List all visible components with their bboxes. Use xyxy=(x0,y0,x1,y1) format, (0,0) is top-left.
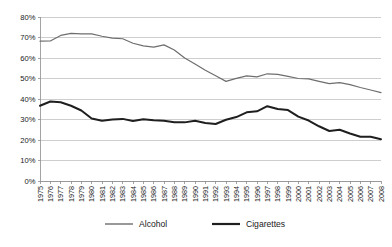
x-tick-label: 1981 xyxy=(98,186,107,202)
y-tick-label: 50% xyxy=(20,74,35,83)
x-tick-label: 1987 xyxy=(160,186,169,202)
x-tick-label: 1982 xyxy=(108,186,117,202)
x-tick-label: 1976 xyxy=(46,186,55,202)
x-tick-label: 1985 xyxy=(139,186,148,202)
x-tick-label: 2000 xyxy=(294,186,303,202)
y-tick-label: 10% xyxy=(20,156,35,165)
x-tick-label: 2005 xyxy=(346,186,355,202)
x-tick-label: 2002 xyxy=(315,186,324,202)
y-tick-label: 70% xyxy=(20,33,35,42)
x-tick-label: 1992 xyxy=(211,186,220,202)
x-tick-label: 1988 xyxy=(170,186,179,202)
x-tick-label: 2003 xyxy=(325,186,334,202)
x-tick-label: 2007 xyxy=(366,186,375,202)
y-tick-label: 80% xyxy=(20,13,35,22)
series-group xyxy=(40,33,381,139)
x-tick-label: 1995 xyxy=(242,186,251,202)
x-tick-label: 2008 xyxy=(377,186,386,202)
x-tick-label: 1998 xyxy=(273,186,282,202)
chart-canvas: 0%10%20%30%40%50%60%70%80% 1975197619771… xyxy=(0,0,392,247)
legend-item-alcohol[interactable]: Alcohol xyxy=(105,219,167,229)
series-line-cigarettes xyxy=(40,101,381,139)
x-tick-label: 1975 xyxy=(36,186,45,202)
x-tick-label: 1977 xyxy=(56,186,65,202)
x-tick-label: 1993 xyxy=(222,186,231,202)
y-tick-label: 20% xyxy=(20,136,35,145)
y-tick-label: 0% xyxy=(25,177,36,186)
legend-item-cigarettes[interactable]: Cigarettes xyxy=(212,219,285,229)
legend-label: Alcohol xyxy=(139,219,167,229)
y-tick-label: 30% xyxy=(20,115,35,124)
x-tick-label: 2004 xyxy=(335,186,344,202)
x-tick-label: 1994 xyxy=(232,186,241,202)
line-chart: 0%10%20%30%40%50%60%70%80% 1975197619771… xyxy=(0,0,392,247)
x-tick-label: 1996 xyxy=(253,186,262,202)
legend: AlcoholCigarettes xyxy=(105,219,285,229)
x-tick-label: 2001 xyxy=(304,186,313,202)
x-tick-label: 1986 xyxy=(149,186,158,202)
x-tick-label: 1980 xyxy=(87,186,96,202)
x-tick-label: 1991 xyxy=(201,186,210,202)
x-tick-label: 1990 xyxy=(191,186,200,202)
x-tick-label: 1984 xyxy=(129,186,138,202)
x-tick-label: 2006 xyxy=(356,186,365,202)
x-tick-label: 1978 xyxy=(67,186,76,202)
y-tick-label: 60% xyxy=(20,54,35,63)
x-tick-label: 1997 xyxy=(263,186,272,202)
series-line-alcohol xyxy=(40,33,381,92)
y-tick-label: 40% xyxy=(20,95,35,104)
legend-label: Cigarettes xyxy=(246,219,285,229)
x-tick-label: 1989 xyxy=(180,186,189,202)
x-axis-tick-labels: 1975197619771978197919801981198219831984… xyxy=(36,181,386,202)
y-axis-tick-labels: 0%10%20%30%40%50%60%70%80% xyxy=(20,13,40,186)
x-tick-label: 1999 xyxy=(284,186,293,202)
x-tick-label: 1979 xyxy=(77,186,86,202)
x-tick-label: 1983 xyxy=(118,186,127,202)
gridlines-group xyxy=(40,17,381,181)
